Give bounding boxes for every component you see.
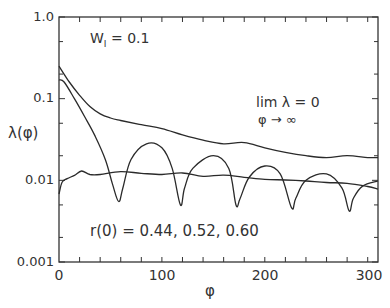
series-line-2 bbox=[59, 171, 378, 194]
series-line-0 bbox=[59, 66, 378, 158]
wi-annotation: WI = 0.1 bbox=[90, 31, 149, 49]
y-tick-label: 0.1 bbox=[2, 91, 54, 104]
y-tick-label: 1.0 bbox=[2, 10, 54, 23]
y-axis-label: λ(φ) bbox=[8, 126, 38, 141]
x-axis-label: φ bbox=[205, 284, 215, 299]
series-line-1 bbox=[59, 80, 378, 212]
x-tick-label: 0 bbox=[39, 268, 79, 282]
limit-annotation-line2: φ → ∞ bbox=[258, 113, 297, 126]
data-series bbox=[59, 66, 378, 211]
x-tick-label: 200 bbox=[245, 268, 285, 282]
wi-value: = 0.1 bbox=[107, 30, 150, 46]
x-tick-label: 100 bbox=[142, 268, 182, 282]
x-tick-label: 300 bbox=[349, 268, 389, 282]
chart-plot bbox=[0, 0, 390, 308]
limit-annotation-line1: lim λ = 0 bbox=[256, 95, 320, 109]
y-tick-label: 0.01 bbox=[2, 173, 54, 186]
wi-symbol: W bbox=[90, 30, 104, 46]
r0-annotation: r(0) = 0.44, 0.52, 0.60 bbox=[90, 224, 259, 239]
y-tick-label: 0.001 bbox=[2, 255, 54, 268]
